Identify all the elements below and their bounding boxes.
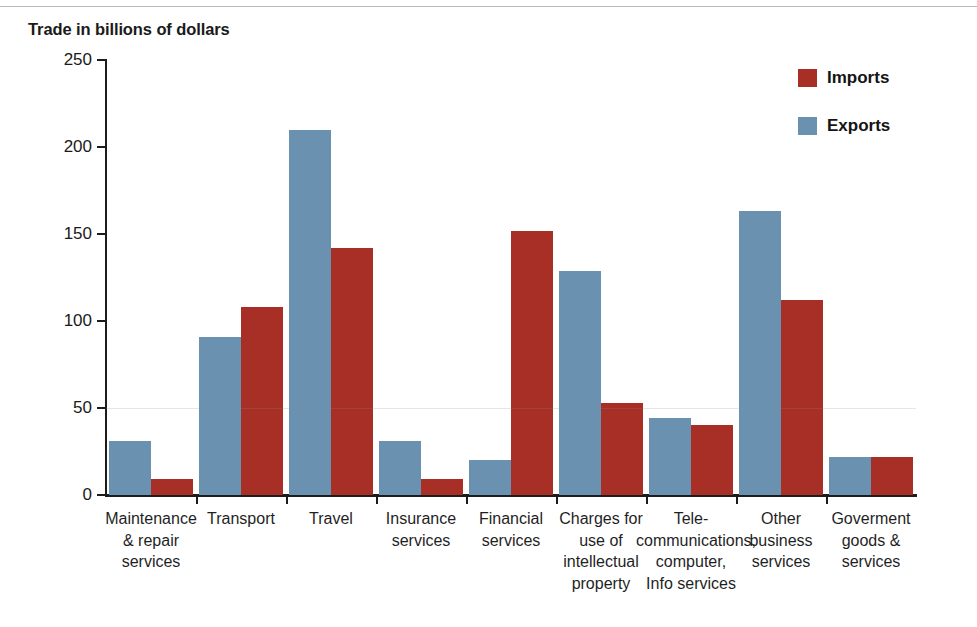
bar-group [379,60,463,495]
bar-exports [649,418,691,495]
x-tick-mark [826,494,828,504]
x-tick-mark [466,494,468,504]
y-tick-mark [97,407,106,409]
bar-exports [829,457,871,495]
bar-exports [199,337,241,495]
bar-exports [559,271,601,495]
bar-group [289,60,373,495]
legend-swatch-exports [798,117,817,135]
category-label-line: goods & [816,530,926,552]
x-tick-mark [376,494,378,504]
plot-area [106,60,916,495]
x-tick-mark [736,494,738,504]
bar-exports [289,130,331,495]
y-tick-label: 50 [73,398,92,418]
chart-page: Trade in billions of dollars 25020015010… [0,0,977,627]
x-tick-mark [196,494,198,504]
category-label-line: & repair [96,530,206,552]
bar-exports [739,211,781,495]
legend-swatch-imports [798,69,817,87]
bar-imports [331,248,373,495]
soft-gridline [106,408,916,409]
legend-item-exports: Exports [798,116,890,136]
y-tick-label: 150 [64,224,92,244]
bar-group [559,60,643,495]
x-tick-mark [556,494,558,504]
y-tick-mark [97,59,106,61]
x-axis-category-labels: Maintenance& repairservicesTransportTrav… [0,508,977,623]
y-tick-label: 0 [83,485,92,505]
y-tick-mark [97,233,106,235]
category-label-line: Info services [636,573,746,595]
bar-imports [871,457,913,495]
bar-imports [511,231,553,495]
bar-imports [151,479,193,495]
bar-group [469,60,553,495]
category-label-line: Goverment [816,508,926,530]
y-tick-label: 100 [64,311,92,331]
bar-imports [691,425,733,495]
category-label-line: services [816,551,926,573]
bar-group [109,60,193,495]
bar-imports [601,403,643,495]
y-tick-mark [97,146,106,148]
y-tick-mark [97,320,106,322]
y-tick-label: 250 [64,50,92,70]
bar-imports [421,479,463,495]
bar-exports [469,460,511,495]
bar-group [649,60,733,495]
category-label: Govermentgoods &services [816,508,926,573]
legend-item-imports: Imports [798,68,889,88]
x-tick-mark [286,494,288,504]
bar-exports [379,441,421,495]
bar-imports [781,300,823,495]
legend-label-exports: Exports [827,116,890,136]
legend-label-imports: Imports [827,68,889,88]
category-label-line: services [96,551,206,573]
bar-imports [241,307,283,495]
y-tick-label: 200 [64,137,92,157]
y-tick-mark [97,494,106,496]
bar-exports [109,441,151,495]
bar-group [199,60,283,495]
top-divider [0,6,977,7]
x-tick-mark [646,494,648,504]
